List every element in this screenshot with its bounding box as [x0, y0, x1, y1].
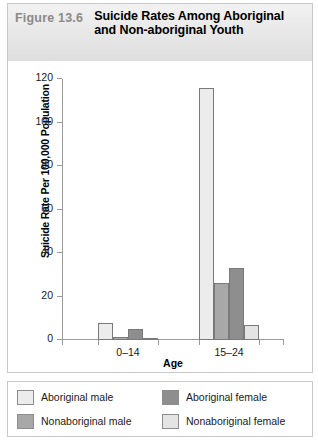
bar	[98, 323, 113, 340]
y-axis-tick: 60	[57, 209, 62, 210]
y-axis-tick-label: 20	[41, 289, 53, 301]
y-axis-tick-label: 100	[35, 115, 53, 127]
bar	[199, 88, 214, 340]
legend-item: Aboriginal male	[17, 390, 162, 405]
legend-label: Aboriginal female	[186, 391, 267, 403]
figure-header: Figure 13.6 Suicide Rates Among Aborigin…	[7, 3, 313, 61]
y-axis-tick: 80	[57, 165, 62, 166]
x-axis-label: Age	[62, 357, 284, 369]
figure-container: Figure 13.6 Suicide Rates Among Aborigin…	[0, 0, 318, 443]
y-axis-line	[62, 79, 63, 340]
legend-swatch	[162, 390, 179, 405]
bar	[113, 337, 128, 340]
bar	[143, 338, 158, 340]
bar	[229, 268, 244, 340]
x-axis-tick	[62, 340, 63, 345]
x-axis-tick	[199, 340, 200, 345]
chart-legend: Aboriginal maleAboriginal femaleNonabori…	[7, 381, 313, 437]
figure-number: Figure 13.6	[15, 10, 83, 25]
x-axis-tick	[98, 340, 99, 345]
bar	[128, 329, 143, 340]
bar	[214, 283, 229, 340]
y-axis-label: Suicide Rate Per 100,000 Population	[39, 71, 51, 271]
legend-swatch	[17, 414, 34, 429]
chart-axes: 0204060801001200–1415–24	[62, 79, 284, 340]
x-axis-tick	[259, 340, 260, 345]
y-axis-tick-label: 0	[47, 332, 53, 344]
legend-label: Nonaboriginal male	[41, 415, 131, 427]
x-axis-tick	[283, 340, 284, 345]
figure-title: Suicide Rates Among Aboriginal and Non-a…	[94, 10, 309, 38]
y-axis-tick-label: 120	[35, 71, 53, 83]
y-axis-tick: 20	[57, 296, 62, 297]
y-axis-tick: 40	[57, 252, 62, 253]
plot-area: Suicide Rate Per 100,000 Population 0204…	[7, 61, 313, 373]
legend-item: Nonaboriginal female	[162, 414, 318, 429]
y-axis-tick-label: 80	[41, 158, 53, 170]
x-axis-tick	[158, 340, 159, 345]
y-axis-tick: 100	[57, 122, 62, 123]
legend-swatch	[17, 390, 34, 405]
legend-swatch	[162, 414, 179, 429]
y-axis-tick-label: 60	[41, 202, 53, 214]
legend-item: Aboriginal female	[162, 390, 318, 405]
legend-label: Nonaboriginal female	[186, 415, 285, 427]
y-axis-tick: 120	[57, 78, 62, 79]
legend-label: Aboriginal male	[41, 391, 113, 403]
legend-item: Nonaboriginal male	[17, 414, 162, 429]
y-axis-tick-label: 40	[41, 245, 53, 257]
bar	[244, 325, 259, 340]
